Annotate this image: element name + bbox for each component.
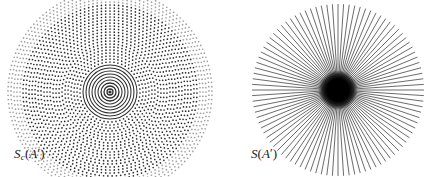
- figure-label-left: Sc(A′): [14, 147, 45, 162]
- figure-root: Sc(A′) S(A′): [0, 0, 442, 177]
- label-left-close-paren: ): [40, 146, 44, 161]
- label-right-argument: A: [262, 146, 270, 161]
- figure-label-right: S(A′): [251, 147, 277, 160]
- panel-left-dotted-disc: Sc(A′): [0, 0, 221, 177]
- label-right-close-paren: ): [273, 146, 277, 161]
- starburst-core: [318, 70, 358, 110]
- panel-right-starburst: S(A′): [221, 0, 442, 177]
- label-left-base: S: [14, 146, 21, 161]
- label-right-base: S: [251, 146, 258, 161]
